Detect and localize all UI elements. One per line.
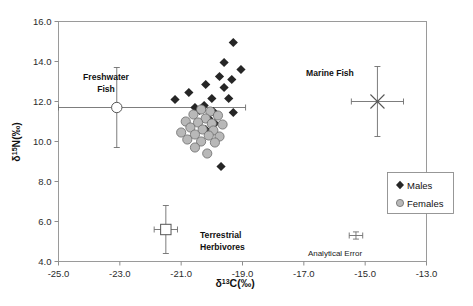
y-axis-title: δ15N(‰) [10,122,22,161]
data-point-male [220,58,229,67]
x-axis: -25.0-23.0-21.0-19.0-17.0-15.0-13.0 [48,262,438,279]
data-point-female [190,143,199,152]
annotation-labels: Freshwater Fish Marine Fish Terrestrial … [83,68,362,258]
data-point-male [184,88,193,97]
freshwater-fish-label-line2: Fish [97,84,115,94]
legend[interactable]: Males Females [388,173,454,214]
analytical-error-label: Analytical Error [308,249,363,258]
x-tick-label: -21.0 [170,268,192,279]
y-tick-label: 8.0 [38,176,51,187]
data-point-male [229,38,238,47]
legend-marker-circle [396,199,403,206]
marker-open-circle [112,102,122,112]
data-point-female [203,149,212,158]
x-tick-label: -25.0 [48,268,70,279]
marker-open-square [161,224,171,234]
data-point-female [213,111,222,120]
y-tick-label: 16.0 [33,16,52,27]
y-tick-label: 4.0 [38,256,51,267]
data-point-male [236,65,245,74]
data-point-female [210,138,219,147]
x-tick-label: -15.0 [354,268,376,279]
scatter-plot: 4.06.08.010.012.014.016.0 -25.0-23.0-21.… [0,0,473,306]
y-tick-label: 12.0 [33,96,52,107]
x-axis-title: δ13C(‰) [215,277,254,289]
x-tick-label: -17.0 [293,268,315,279]
figure-container: 4.06.08.010.012.014.016.0 -25.0-23.0-21.… [0,0,473,306]
marine-fish-label: Marine Fish [306,68,354,78]
terrestrial-herbivores-label-line2: Herbivores [200,242,245,252]
y-tick-label: 14.0 [33,56,52,67]
x-tick-label: -23.0 [109,268,131,279]
legend-label-males[interactable]: Males [407,180,433,191]
data-point-male [215,72,224,81]
data-point-male [201,80,210,89]
annotation-marine-fish [351,67,403,137]
series-females [177,105,228,158]
annotation-analytical-error [349,232,362,239]
data-point-female [218,120,227,129]
data-point-male [227,75,236,84]
data-point-male [216,162,225,171]
y-axis: 4.06.08.010.012.014.016.0 [33,16,59,267]
terrestrial-herbivores-label-line1: Terrestrial [200,230,241,240]
freshwater-fish-label-line1: Freshwater [83,72,130,82]
data-point-male [207,94,216,103]
annotation-terrestrial-herbivores [154,206,177,254]
legend-label-females[interactable]: Females [407,198,444,209]
data-point-male [220,83,229,92]
x-tick-label: -13.0 [416,268,438,279]
data-point-male [170,95,179,104]
data-series [170,38,245,171]
y-tick-label: 10.0 [33,136,52,147]
y-tick-label: 6.0 [38,216,51,227]
annotation-markers [59,67,404,254]
data-point-female [183,135,192,144]
plot-frame [59,22,427,262]
data-point-male [224,94,233,103]
data-point-male [229,108,238,117]
